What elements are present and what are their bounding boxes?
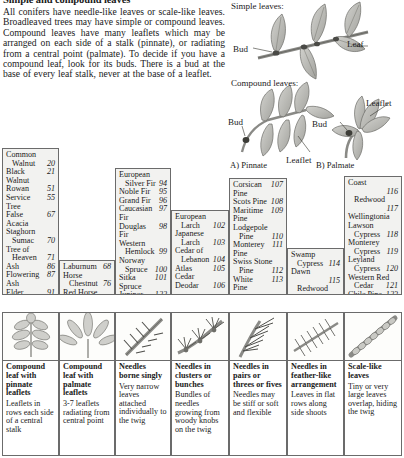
species-entry[interactable]: Western Red121Cedar [348,274,398,291]
species-entry[interactable]: Cedar of104Lebanon [175,247,225,264]
single-needle-icon [116,313,170,361]
species-name: 55Service Tree [6,194,55,211]
leaf-type-cards: Compound leaf with pinnate leaflets Leaf… [2,312,402,456]
species-entry[interactable]: Swamp114Cypress [291,251,340,268]
index-column-scale: Coast116Redwood117WellingtoniaLawson118C… [344,176,402,295]
card-pinnate[interactable]: Compound leaf with pinnate leaflets Leaf… [2,312,59,456]
species-name: 123Chile Pine [348,291,398,295]
species-entry[interactable]: Red Horse77Chestnut [63,289,111,295]
species-name: 21Black Walnut [6,168,55,185]
page-title: Simple and compound leaves [3,0,225,5]
card-heading: Needles in feather-like arrangement [291,363,340,389]
pinnate-leaf-icon [3,313,58,361]
species-name: 101Sitka Spruce [119,274,167,291]
species-number: 55 [44,194,55,203]
species-name-cont: 116Redwood [348,188,398,205]
species-number: 122 [152,291,167,295]
bud-label-palmate: Bud [312,119,327,129]
species-name: 97Caucasian Fir [119,205,167,222]
species-entry[interactable]: 107Corsican Pine [233,181,283,198]
species-entry[interactable]: Common20Walnut [6,151,55,168]
species-entry[interactable]: 123Chile Pine [348,291,398,295]
card-feather[interactable]: Needles in feather-like arrangement Leav… [287,312,344,456]
species-entry[interactable]: Monterey119Cypress [348,239,398,256]
card-pairs[interactable]: Needles in pairs or threes or fives Need… [229,312,287,456]
species-name: 107Corsican Pine [233,181,283,198]
species-entry[interactable]: Horse76Chestnut [63,272,111,289]
species-entry[interactable]: 106Deodar [175,282,225,291]
species-entry[interactable]: 98Douglas Fir [119,223,167,240]
species-entry[interactable]: Western99Hemlock [119,240,167,257]
species-name: 113White Pine [233,276,283,293]
species-entry[interactable]: European94Silver Fir [119,171,167,188]
card-scale[interactable]: Scale-like leaves Tiny or very large lea… [344,312,402,456]
species-entry[interactable]: Coast116Redwood [291,294,340,295]
species-name: 105Atlas Cedar [175,265,225,282]
palmate-leaf-icon [60,313,114,361]
species-number: 67 [44,211,55,220]
species-number: 101 [152,274,167,283]
species-entry[interactable]: Japanese103Larch [175,230,225,247]
species-entry[interactable]: Coast116Redwood [348,179,398,205]
species-entry[interactable]: 91Elder [6,289,55,296]
card-heading: Compound leaf with pinnate leaflets [6,363,55,398]
species-entry[interactable]: 105Atlas Cedar [175,265,225,282]
palmate-bud [346,130,353,136]
card-body: Very narrow leaves attached individually… [119,383,167,426]
species-entry[interactable]: 109Maritime Pine [233,207,283,224]
species-entry[interactable]: Lodgepole110Pine [233,224,283,241]
species-entry[interactable]: 113White Pine [233,276,283,293]
species-number: 91 [44,289,55,296]
species-number: 113 [268,276,283,285]
species-entry[interactable]: 122Juniper [119,291,167,295]
species-entry[interactable]: 67False Acacia [6,211,55,228]
species-entry[interactable]: 117Wellingtonia [348,205,398,222]
species-entry[interactable]: 111Monterey Pine [233,241,283,258]
species-entry[interactable]: 55Service Tree [6,194,55,211]
card-palmate[interactable]: Compound leaf with palmate leaflets 3-7 … [59,312,115,456]
species-name: 106Deodar [175,282,225,291]
species-entry[interactable]: Staghorn70Sumac [6,228,55,245]
species-name: 117Wellingtonia [348,205,398,222]
species-number: 116 [383,188,398,197]
species-entry[interactable]: Tree of71Heaven [6,246,55,263]
intro-section: Simple and compound leaves All conifers … [3,0,225,80]
species-name: 67False Acacia [6,211,55,228]
species-number: 97 [156,205,167,214]
index-column-pairs: 107Corsican Pine108Scots Pine109Maritime… [229,178,287,295]
species-entry[interactable]: Lawson118Cypress [348,222,398,239]
index-column-clusters: European102LarchJapanese103LarchCedar of… [171,210,229,295]
index-column-palmate: 68LaburnumHorse76ChestnutRed Horse77Ches… [59,260,115,295]
species-name: 111Monterey Pine [233,241,283,258]
species-entry[interactable]: European102Larch [175,213,225,230]
species-entry[interactable]: Leyland120Cypress [348,256,398,273]
compound-leaves-heading: Compound leaves: [231,78,298,88]
index-column-feather: Swamp114CypressDawn115RedwoodCoast116Red… [287,248,344,295]
bud-label-pinnate: Bud [228,117,243,127]
species-number: 68 [100,263,111,272]
species-index-columns: Common20Walnut21Black Walnut51Rowan55Ser… [2,148,402,310]
card-body: Tiny or very large leaves overlap, hidin… [348,383,398,417]
species-name: 122Juniper [119,291,167,295]
species-number: 98 [156,223,167,232]
species-entry[interactable]: Dawn115Redwood [291,268,340,294]
species-entry[interactable]: Swiss Stone112Pine [233,258,283,275]
card-heading: Compound leaf with palmate leaflets [63,363,111,398]
card-body: Leaflets in rows each side of a central … [6,400,55,434]
species-entry[interactable]: 21Black Walnut [6,168,55,185]
card-singly[interactable]: Needles borne singly Very narrow leaves … [115,312,171,456]
species-entry[interactable]: 101Sitka Spruce [119,274,167,291]
species-entry[interactable]: 87Flowering Ash [6,271,55,288]
card-heading: Needles in pairs or threes or fives [233,363,283,389]
species-number: 117 [383,205,398,214]
needle-cluster-icon [172,313,228,361]
species-entry[interactable]: 97Caucasian Fir [119,205,167,222]
card-heading: Needles in clusters or bunches [175,363,225,389]
species-entry[interactable]: Norway100Spruce [119,257,167,274]
card-clusters[interactable]: Needles in clusters or bunches Bundles o… [171,312,229,456]
species-number: 119 [383,248,398,257]
species-number: 76 [100,280,111,289]
species-number: 107 [268,181,283,190]
card-body: Bundles of needles growing from woody kn… [175,391,225,434]
leaflet-label-palmate: Leaflet [366,98,391,108]
